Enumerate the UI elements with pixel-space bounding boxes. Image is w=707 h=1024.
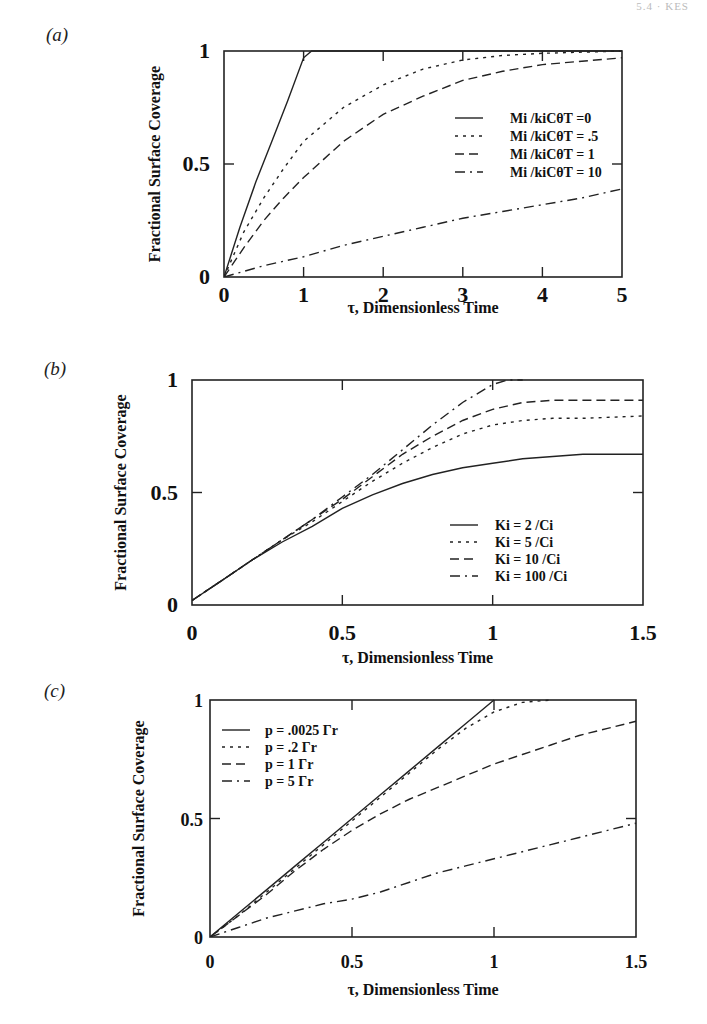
x-tick-label: 0: [206, 952, 215, 972]
y-tick-label: 0.5: [181, 810, 204, 830]
chart-panel-c: 00.511.500.51τ, Dimensionless TimeFracti…: [0, 0, 707, 1024]
series-line: [210, 700, 494, 937]
x-axis-title: τ, Dimensionless Time: [347, 981, 498, 998]
series-line: [210, 823, 636, 937]
series-line: [210, 700, 551, 937]
x-tick-label: 0.5: [341, 952, 364, 972]
legend-label: p = 5 Γr: [265, 774, 313, 789]
legend-label: p = .2 Γr: [265, 740, 317, 755]
y-axis-title: Fractional Surface Coverage: [130, 720, 148, 916]
y-tick-label: 0: [194, 928, 203, 948]
legend-label: p = 1 Γr: [265, 757, 313, 772]
legend-label: p = .0025 Γr: [265, 723, 338, 738]
x-tick-label: 1.5: [625, 952, 648, 972]
x-tick-label: 1: [490, 952, 499, 972]
y-tick-label: 1: [194, 691, 203, 711]
